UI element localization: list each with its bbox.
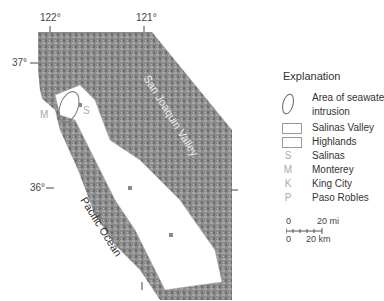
lat-label-36: 36° [30,182,45,193]
salinas-valley-swatch [282,123,302,134]
lon-label-122: 122° [40,12,61,23]
lat-label-37: 37° [12,57,27,68]
relief-map: S M San Joaquin Valley Pacific Ocean [0,0,240,301]
map: S M San Joaquin Valley Pacific Ocean 122… [0,0,240,301]
salinas-letter: S [83,105,90,116]
monterey-letter: M [40,109,48,120]
lon-label-121: 121° [136,12,157,23]
highlands-swatch [282,137,302,148]
legend-title: Explanation [283,70,341,82]
salinas-marker [78,103,82,107]
king-city-marker [128,186,132,190]
scale-bar: 0 20 mi 0 20 km [284,216,364,256]
paso-robles-marker [169,233,173,237]
